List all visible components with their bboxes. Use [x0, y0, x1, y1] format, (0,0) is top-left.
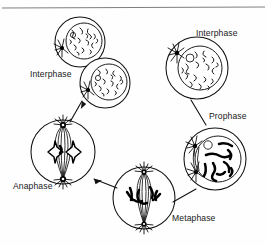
connector-anaphase-to-interphase: [70, 101, 86, 122]
cell-metaphase: [113, 162, 175, 234]
cell-interphase-left-lower: [80, 58, 130, 108]
diagram-canvas: Interphase Prophase Metaphase Anaphase I…: [0, 0, 267, 246]
label-interphase-right: Interphase: [196, 28, 238, 38]
label-anaphase: Anaphase: [13, 181, 53, 191]
centrosome: [86, 88, 90, 92]
nucleus-membrane: [91, 64, 127, 100]
nucleolus: [186, 54, 194, 62]
connector-metaphase-to-anaphase: [94, 179, 117, 188]
label-metaphase: Metaphase: [172, 213, 216, 223]
mitosis-diagram: Interphase Prophase Metaphase Anaphase I…: [0, 0, 267, 246]
label-interphase-left: Interphase: [30, 69, 72, 79]
connector-prophase-to-metaphase: [173, 189, 196, 202]
centriole-core-top: [62, 124, 65, 127]
nucleus-membrane: [178, 46, 222, 90]
centriole-core-bottom: [62, 178, 65, 181]
nucleolus: [204, 141, 212, 149]
cell-interphase-right: [166, 37, 228, 99]
nucleolus: [95, 75, 100, 80]
centrosome: [60, 46, 64, 50]
label-prophase: Prophase: [209, 111, 247, 121]
centrosome: [175, 51, 180, 56]
centriole-core-bottom: [143, 223, 145, 225]
connector-interphase-to-prophase: [191, 100, 206, 125]
cell-anaphase: [31, 115, 95, 189]
centriole-core-top: [143, 171, 145, 173]
chromatid-strand: [60, 146, 62, 153]
top-divider-rule: [2, 7, 265, 8]
cell-prophase: [184, 128, 246, 190]
